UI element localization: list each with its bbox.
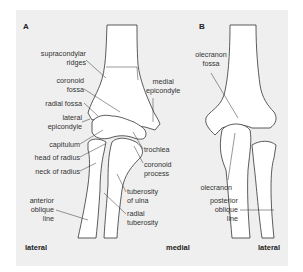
- panel-b-header: B: [199, 22, 205, 31]
- label-olecranon-fossa: olecranon fossa: [186, 50, 236, 68]
- radius-posterior: [252, 141, 276, 238]
- label-supracondylar-ridges: supracondylar ridges: [18, 49, 86, 67]
- label-neck-of-radius: neck of radius: [18, 167, 80, 176]
- radius-anterior: [78, 139, 106, 238]
- label-coronoid-process: coronoid process: [144, 160, 172, 178]
- label-coronoid-fossa: coronoid fossa: [18, 76, 84, 94]
- label-lateral-epicondyle: lateral epicondyle: [18, 113, 82, 131]
- label-posterior-oblique-line: posterior oblique line: [190, 196, 238, 223]
- orientation-medial-a: medial: [166, 243, 190, 252]
- elbow-bones-illustration: [0, 0, 303, 272]
- label-anterior-oblique-line: anterior oblique line: [18, 196, 54, 223]
- humerus-posterior: [206, 25, 276, 135]
- label-head-of-radius: head of radius: [18, 153, 80, 162]
- panel-a-header: A: [23, 22, 29, 31]
- label-olecranon: olecranon: [190, 183, 232, 192]
- label-capitulum: capitulum: [18, 140, 80, 149]
- orientation-lateral-a: lateral: [25, 243, 47, 252]
- label-radial-tuberosity: radial tuberosity: [127, 209, 158, 227]
- label-medial-epicondyle: medial epicondyle: [146, 77, 180, 95]
- label-trochlea: trochlea: [144, 145, 170, 154]
- orientation-lateral-b: lateral: [258, 243, 280, 252]
- label-radial-fossa: radial fossa: [18, 99, 82, 108]
- label-tuberosity-of-ulna: tuberosity of ulna: [127, 187, 158, 205]
